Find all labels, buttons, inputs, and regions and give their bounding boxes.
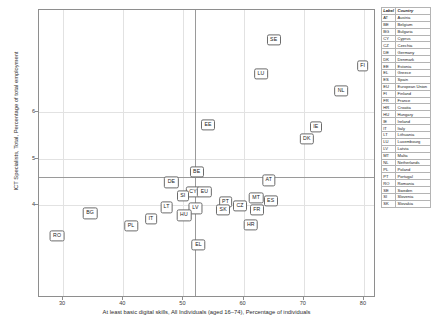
- legend-code: PT: [382, 173, 396, 180]
- legend-country: Malta: [396, 152, 431, 159]
- legend-country: Austria: [396, 14, 431, 21]
- legend-row: FIFinland: [382, 90, 431, 97]
- data-point-hu[interactable]: HU: [177, 210, 192, 221]
- data-point-sk[interactable]: SK: [216, 204, 230, 215]
- data-point-ie[interactable]: IE: [310, 121, 322, 132]
- data-point-nl[interactable]: NL: [334, 85, 348, 96]
- legend-code: HU: [382, 111, 396, 118]
- x-tick-label: 30: [59, 300, 65, 306]
- data-point-ee[interactable]: EE: [201, 120, 215, 131]
- y-gridline: [39, 205, 374, 206]
- x-tick-label: 40: [119, 300, 125, 306]
- legend-row: PLPoland: [382, 166, 431, 173]
- legend-country: Greece: [396, 70, 431, 77]
- legend-header-row: Label Country: [382, 8, 431, 15]
- data-point-lt[interactable]: LT: [160, 202, 173, 213]
- legend-table: Label Country ATAustriaBEBelgiumBGBulgar…: [381, 7, 431, 208]
- legend-row: BGBulgaria: [382, 28, 431, 35]
- legend-country: Netherlands: [396, 159, 431, 166]
- legend-row: SESweden: [382, 187, 431, 194]
- x-gridline: [63, 10, 64, 296]
- legend-country: Spain: [396, 76, 431, 83]
- legend-row: EEEstonia: [382, 63, 431, 70]
- legend-country: Slovenia: [396, 194, 431, 201]
- legend-country: Portugal: [396, 173, 431, 180]
- y-tick-label: 6: [26, 108, 35, 114]
- data-point-dk[interactable]: DK: [300, 133, 314, 144]
- legend-country: Germany: [396, 49, 431, 56]
- data-point-it[interactable]: IT: [145, 213, 157, 224]
- data-point-el[interactable]: EL: [192, 239, 205, 250]
- legend-code: LV: [382, 145, 396, 152]
- legend-row: CYCyprus: [382, 35, 431, 42]
- plot-area: SEFILUNLEEIEDKBEATDECYEUSIMTESPTCZLTLVSK…: [38, 9, 375, 297]
- data-point-eu[interactable]: EU: [197, 186, 211, 197]
- data-point-es[interactable]: ES: [264, 195, 278, 206]
- legend-country: Latvia: [396, 145, 431, 152]
- x-gridline: [183, 10, 184, 296]
- x-tick-label: 80: [360, 300, 366, 306]
- data-point-bg[interactable]: BG: [83, 208, 98, 219]
- legend-row: RORomania: [382, 180, 431, 187]
- legend-country: Sweden: [396, 187, 431, 194]
- legend-country: Belgium: [396, 21, 431, 28]
- y-gridline: [39, 112, 374, 113]
- legend-country: Bulgaria: [396, 28, 431, 35]
- x-tick-label: 70: [300, 300, 306, 306]
- legend-country: Hungary: [396, 111, 431, 118]
- legend-country: Poland: [396, 166, 431, 173]
- legend-country: Denmark: [396, 56, 431, 63]
- data-point-lu[interactable]: LU: [254, 68, 268, 79]
- x-tick-label: 50: [179, 300, 185, 306]
- legend-code: CZ: [382, 42, 396, 49]
- y-gridline: [39, 159, 374, 160]
- data-point-se[interactable]: SE: [267, 35, 281, 46]
- legend-code: EU: [382, 83, 396, 90]
- legend-code: SK: [382, 200, 396, 207]
- y-axis-label: ICT Specialists, Total, Percentage of to…: [13, 41, 19, 201]
- legend-row: ELGreece: [382, 70, 431, 77]
- legend-country: Croatia: [396, 104, 431, 111]
- legend-code: LT: [382, 132, 396, 139]
- vertical-reference-line: [195, 10, 196, 296]
- legend-row: ITItaly: [382, 125, 431, 132]
- scatter-chart-page: SEFILUNLEEIEDKBEATDECYEUSIMTESPTCZLTLVSK…: [0, 0, 433, 328]
- legend-header-country: Country: [396, 8, 431, 15]
- data-point-fi[interactable]: FI: [357, 60, 369, 71]
- legend-row: ESSpain: [382, 76, 431, 83]
- legend-code: FI: [382, 90, 396, 97]
- data-point-ro[interactable]: RO: [50, 230, 65, 241]
- legend-country: Luxembourg: [396, 138, 431, 145]
- legend-code: DE: [382, 49, 396, 56]
- legend-body: ATAustriaBEBelgiumBGBulgariaCYCyprusCZCz…: [382, 14, 431, 207]
- legend-code: IT: [382, 125, 396, 132]
- legend-row: HRCroatia: [382, 104, 431, 111]
- legend-row: CZCzechia: [382, 42, 431, 49]
- x-gridline: [123, 10, 124, 296]
- legend-code: EL: [382, 70, 396, 77]
- legend-country: Ireland: [396, 118, 431, 125]
- y-tick-label: 4: [26, 201, 35, 207]
- legend-code: PL: [382, 166, 396, 173]
- data-point-cz[interactable]: CZ: [233, 200, 247, 211]
- x-gridline: [364, 10, 365, 296]
- legend-code: FR: [382, 97, 396, 104]
- data-point-pl[interactable]: PL: [124, 220, 137, 231]
- data-point-si[interactable]: SI: [177, 191, 189, 202]
- data-point-mt[interactable]: MT: [249, 193, 264, 204]
- data-point-be[interactable]: BE: [190, 166, 204, 177]
- data-point-de[interactable]: DE: [164, 177, 178, 188]
- legend-row: FRFrance: [382, 97, 431, 104]
- data-point-at[interactable]: AT: [262, 175, 275, 186]
- legend-country: Romania: [396, 180, 431, 187]
- data-point-fr[interactable]: FR: [250, 205, 264, 216]
- legend-row: LULuxembourg: [382, 138, 431, 145]
- horizontal-reference-line: [39, 177, 374, 178]
- legend-code: BE: [382, 21, 396, 28]
- y-tick-mark: [35, 158, 38, 159]
- legend-code: NL: [382, 159, 396, 166]
- legend-country: Estonia: [396, 63, 431, 70]
- y-tick-mark: [35, 204, 38, 205]
- legend-country: Italy: [396, 125, 431, 132]
- data-point-hr[interactable]: HR: [244, 219, 259, 230]
